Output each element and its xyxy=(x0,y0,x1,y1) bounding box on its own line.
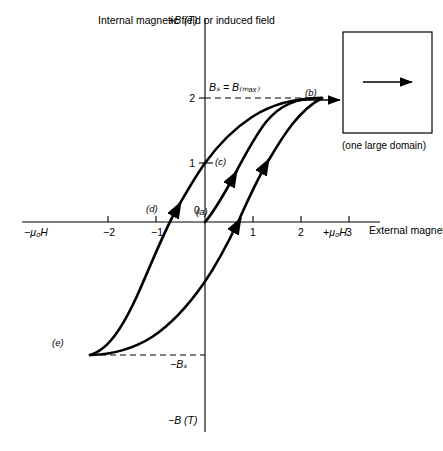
x-axis-description: External magnetic field or applied field xyxy=(369,224,441,237)
descending-branch xyxy=(90,98,322,355)
x-tick-label-2: 2 xyxy=(295,226,307,239)
x-axis-ticks xyxy=(108,216,349,222)
point-label-b: (b) xyxy=(305,87,317,100)
x-tick-label-3: 3 xyxy=(343,226,355,239)
hysteresis-figure: Internal magnetic field or induced field… xyxy=(0,0,443,451)
axis-lines xyxy=(22,18,380,432)
inset-domain-box xyxy=(343,32,432,133)
point-label-e: (e) xyxy=(52,337,64,350)
y-tick-label-2: 2 xyxy=(183,92,195,105)
y-axis-negative-label: −B (T) xyxy=(168,414,197,427)
x-tick-label-minus1: −1 xyxy=(150,226,164,239)
y-axis-description: Internal magnetic field or induced field xyxy=(98,14,172,27)
saturation-label: Bₛ = B₍ₘₐₓ₎ xyxy=(209,81,260,94)
ascending-branch xyxy=(90,98,322,355)
x-tick-label-1: 1 xyxy=(247,226,259,239)
x-axis-negative-label: −μ₀H xyxy=(24,226,48,239)
point-label-c: (c) xyxy=(215,156,226,169)
saturation-guides xyxy=(90,98,322,355)
y-axis-ticks xyxy=(199,98,205,163)
negative-saturation-label: −Bₛ xyxy=(170,358,187,371)
x-tick-label-minus2: −2 xyxy=(102,226,116,239)
y-axis-positive-label: +B (T) xyxy=(168,14,197,27)
y-tick-label-1: 1 xyxy=(183,157,195,170)
inset-caption: (one large domain) xyxy=(330,140,438,153)
point-label-a: (a) xyxy=(196,206,208,219)
point-label-d: (d) xyxy=(146,203,158,216)
